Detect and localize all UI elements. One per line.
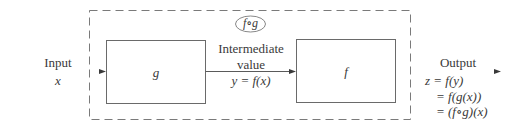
intermediate-label-line2: value bbox=[237, 58, 265, 71]
output-equation-line2: = f(g(x)) bbox=[436, 90, 481, 103]
intermediate-label-line1: Intermediate bbox=[218, 42, 284, 55]
output-equation-line3: = (f∘g)(x) bbox=[436, 105, 488, 118]
intermediate-equation: y = f(x) bbox=[231, 74, 270, 87]
input-label: Input bbox=[44, 56, 71, 69]
box-g-label: g bbox=[153, 66, 160, 79]
composite-label: f∘g bbox=[243, 17, 258, 29]
output-label: Output bbox=[440, 56, 476, 69]
output-equation-line1: z = f(y) bbox=[425, 74, 463, 87]
input-variable: x bbox=[55, 74, 61, 87]
box-f-label: f bbox=[344, 65, 348, 78]
